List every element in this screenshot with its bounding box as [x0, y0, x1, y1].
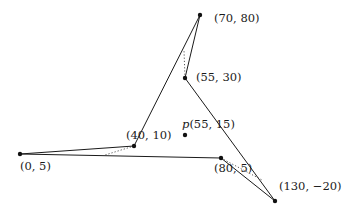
- vertex-dot: [273, 199, 277, 203]
- polygon-edge: [20, 146, 134, 154]
- vertex-dot: [183, 76, 187, 80]
- vertex-label: (80, 5): [214, 161, 252, 175]
- vertex-dot: [219, 156, 223, 160]
- vertex-labels: (70, 80)(55, 30)(130, −20)(80, 5)(0, 5)(…: [20, 11, 342, 193]
- query-point-label: p(55, 15): [182, 117, 235, 131]
- vertex-dot: [18, 152, 22, 156]
- polygon-diagram: (70, 80)(55, 30)(130, −20)(80, 5)(0, 5)(…: [0, 0, 348, 216]
- query-point: p(55, 15): [182, 117, 235, 137]
- vertex-dot: [132, 144, 136, 148]
- polygon-edge: [185, 15, 200, 78]
- vertex-label: (0, 5): [20, 159, 51, 173]
- vertex-label: (70, 80): [214, 11, 260, 25]
- query-point-coords: (55, 15): [189, 117, 235, 131]
- vertex-label: (40, 10): [126, 128, 172, 142]
- query-point-dot: [183, 133, 187, 137]
- polygon-edge: [20, 154, 221, 158]
- vertex-label: (55, 30): [196, 70, 242, 84]
- vertex-label: (130, −20): [279, 179, 342, 193]
- polygon-edge: [185, 78, 275, 201]
- dotted-guide-line: [184, 50, 185, 78]
- vertex-dot: [198, 13, 202, 17]
